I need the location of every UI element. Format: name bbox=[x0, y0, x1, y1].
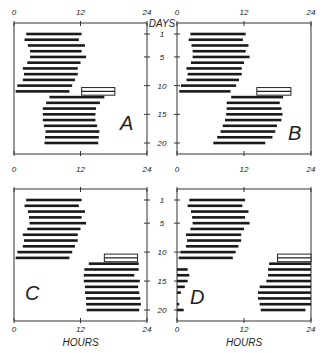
activity-bar bbox=[23, 67, 78, 70]
day-tick-label: 15 bbox=[158, 277, 167, 286]
activity-bar bbox=[87, 309, 140, 312]
activity-bar bbox=[84, 268, 138, 271]
activity-bar bbox=[25, 204, 79, 207]
panel-b: B0122401224 bbox=[174, 8, 316, 174]
hour-tick-label: 24 bbox=[306, 165, 316, 174]
activity-bar bbox=[261, 309, 306, 312]
activity-bar bbox=[29, 216, 82, 219]
day-tick-label: 1 bbox=[160, 30, 164, 39]
activity-bar bbox=[24, 239, 78, 242]
hour-tick-label: 12 bbox=[240, 165, 249, 174]
hour-tick-label: 24 bbox=[142, 8, 152, 17]
activity-bar bbox=[27, 61, 80, 64]
hour-tick-label: 0 bbox=[12, 8, 17, 17]
hour-tick-label: 0 bbox=[12, 325, 17, 334]
panel-label: C bbox=[25, 282, 40, 304]
activity-bar bbox=[223, 124, 277, 127]
hour-tick-label: 0 bbox=[175, 8, 180, 17]
hour-tick-label: 0 bbox=[12, 165, 17, 174]
activity-bar bbox=[26, 33, 81, 36]
activity-bar bbox=[181, 84, 236, 87]
panel-label: B bbox=[288, 122, 301, 144]
activity-bar bbox=[186, 79, 238, 82]
day-tick-label: 1 bbox=[160, 196, 164, 205]
hour-tick-label: 24 bbox=[142, 165, 152, 174]
activity-bar bbox=[186, 67, 241, 70]
activity-bar bbox=[25, 38, 79, 41]
activity-bar bbox=[46, 130, 100, 133]
activity-bar bbox=[268, 274, 311, 277]
day-tick-label: 20 bbox=[157, 139, 167, 148]
activity-bar bbox=[89, 262, 139, 265]
activity-bar bbox=[180, 251, 235, 254]
activity-bar bbox=[227, 102, 280, 105]
activity-bar bbox=[49, 96, 104, 99]
day-tick-label: 20 bbox=[157, 306, 167, 315]
activity-bar bbox=[191, 61, 244, 64]
activity-bar bbox=[179, 257, 233, 260]
activity-bar bbox=[266, 280, 311, 283]
activity-bar bbox=[86, 303, 141, 306]
panel-c: C01224HOURS bbox=[12, 187, 152, 348]
panel-a: A0122401224 bbox=[12, 8, 152, 174]
hour-tick-label: 24 bbox=[142, 325, 152, 334]
activity-bar bbox=[179, 90, 230, 93]
activity-bar bbox=[260, 286, 311, 289]
hour-tick-label: 12 bbox=[76, 8, 85, 17]
activity-bar bbox=[192, 216, 245, 219]
activity-bar bbox=[193, 222, 250, 225]
activity-bar bbox=[44, 124, 97, 127]
hour-tick-label: 12 bbox=[76, 165, 85, 174]
activity-bar bbox=[186, 245, 238, 248]
activity-bar bbox=[28, 44, 85, 47]
activity-bar bbox=[43, 113, 96, 116]
activity-bar bbox=[30, 222, 87, 225]
activity-bar bbox=[23, 233, 78, 236]
activity-bar bbox=[44, 142, 98, 145]
activity-bar bbox=[86, 297, 140, 300]
activity-bar bbox=[30, 50, 82, 53]
activity-bar bbox=[177, 291, 181, 294]
activity-bar bbox=[189, 38, 243, 41]
hours-axis-title: HOURS bbox=[62, 337, 98, 348]
activity-bar bbox=[45, 136, 99, 139]
activity-bar bbox=[192, 44, 249, 47]
activity-bar bbox=[213, 142, 265, 145]
activity-bar bbox=[231, 96, 283, 99]
hour-tick-label: 12 bbox=[240, 8, 249, 17]
activity-bar bbox=[186, 233, 241, 236]
activity-bar bbox=[16, 90, 70, 93]
activity-bar bbox=[217, 136, 272, 139]
activity-bar bbox=[191, 210, 249, 213]
activity-bar bbox=[23, 79, 75, 82]
activity-bar bbox=[177, 286, 185, 289]
activity-bar bbox=[24, 73, 78, 76]
activity-bar bbox=[30, 56, 86, 59]
activity-bar bbox=[177, 268, 188, 271]
activity-bar bbox=[269, 262, 311, 265]
activity-bar bbox=[225, 119, 281, 122]
day-tick-label: 10 bbox=[158, 82, 167, 91]
activity-bar bbox=[258, 297, 311, 300]
activity-bar bbox=[187, 239, 241, 242]
day-tick-label: 5 bbox=[160, 219, 165, 228]
activity-bar bbox=[193, 50, 246, 53]
activity-bar bbox=[84, 280, 140, 283]
activity-bar bbox=[258, 291, 311, 294]
activity-bar bbox=[17, 84, 72, 87]
activity-bar bbox=[177, 274, 189, 277]
activity-bar bbox=[27, 228, 80, 231]
activity-bar bbox=[26, 199, 81, 202]
activity-bar bbox=[85, 291, 139, 294]
panel-label: A bbox=[119, 112, 133, 134]
activity-bar bbox=[188, 73, 242, 76]
activity-bar bbox=[190, 33, 245, 36]
activity-bar bbox=[28, 210, 85, 213]
activity-bar bbox=[177, 303, 179, 306]
hour-tick-label: 24 bbox=[306, 8, 316, 17]
activity-bar bbox=[268, 268, 311, 271]
panel-d: D01224HOURS bbox=[174, 187, 316, 348]
activity-bar bbox=[43, 119, 96, 122]
activity-bar bbox=[227, 107, 282, 110]
activity-bar bbox=[23, 245, 75, 248]
